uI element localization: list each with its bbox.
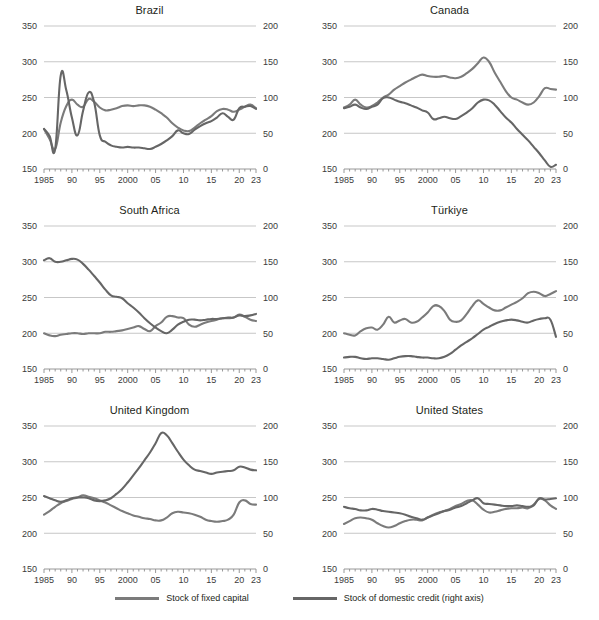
svg-text:2000: 2000 bbox=[118, 175, 138, 185]
svg-text:10: 10 bbox=[178, 575, 188, 585]
svg-text:200: 200 bbox=[563, 221, 578, 231]
svg-text:100: 100 bbox=[263, 93, 278, 103]
svg-text:150: 150 bbox=[322, 164, 337, 174]
panel-plot: 1502002503003500501001502001985909520000… bbox=[0, 0, 299, 196]
svg-text:50: 50 bbox=[263, 529, 273, 539]
panel-brazil: Brazil1502002503003500501001502001985909… bbox=[0, 0, 299, 196]
svg-text:95: 95 bbox=[95, 175, 105, 185]
svg-text:05: 05 bbox=[451, 375, 461, 385]
svg-text:20: 20 bbox=[234, 375, 244, 385]
svg-text:350: 350 bbox=[322, 21, 337, 31]
x-axis-labels: 1985909520000510152023 bbox=[334, 375, 561, 385]
gridlines bbox=[44, 26, 256, 169]
svg-text:1985: 1985 bbox=[334, 175, 354, 185]
panel-plot: 1502002503003500501001502001985909520000… bbox=[300, 400, 599, 596]
series-line-domestic-credit bbox=[44, 71, 256, 153]
gridlines bbox=[44, 226, 256, 369]
panel-plot: 1502002503003500501001502001985909520000… bbox=[0, 200, 299, 396]
svg-text:100: 100 bbox=[563, 493, 578, 503]
legend-fixed-capital: Stock of fixed capital bbox=[115, 593, 249, 603]
svg-text:200: 200 bbox=[22, 129, 37, 139]
svg-text:150: 150 bbox=[263, 57, 278, 67]
series-line-domestic-credit bbox=[344, 317, 556, 359]
series-line-domestic-credit bbox=[344, 97, 556, 167]
svg-text:15: 15 bbox=[206, 175, 216, 185]
svg-text:250: 250 bbox=[22, 493, 37, 503]
x-axis-labels: 1985909520000510152023 bbox=[34, 375, 261, 385]
svg-text:150: 150 bbox=[22, 364, 37, 374]
x-axis-labels: 1985909520000510152023 bbox=[334, 575, 561, 585]
svg-text:10: 10 bbox=[478, 575, 488, 585]
svg-text:200: 200 bbox=[563, 21, 578, 31]
svg-text:05: 05 bbox=[451, 175, 461, 185]
svg-text:20: 20 bbox=[534, 575, 544, 585]
svg-text:250: 250 bbox=[322, 493, 337, 503]
left-axis-labels: 150200250300350 bbox=[322, 421, 337, 574]
svg-text:20: 20 bbox=[534, 175, 544, 185]
svg-text:0: 0 bbox=[563, 364, 568, 374]
svg-text:150: 150 bbox=[563, 457, 578, 467]
series-line-domestic-credit bbox=[44, 432, 256, 501]
svg-text:90: 90 bbox=[367, 375, 377, 385]
svg-text:150: 150 bbox=[263, 257, 278, 267]
svg-text:300: 300 bbox=[322, 257, 337, 267]
svg-text:300: 300 bbox=[22, 57, 37, 67]
gridlines bbox=[344, 426, 556, 569]
svg-text:10: 10 bbox=[478, 175, 488, 185]
svg-text:300: 300 bbox=[22, 257, 37, 267]
svg-text:50: 50 bbox=[563, 129, 573, 139]
panel-plot: 1502002503003500501001502001985909520000… bbox=[0, 400, 299, 596]
svg-text:200: 200 bbox=[322, 329, 337, 339]
svg-text:0: 0 bbox=[563, 564, 568, 574]
panel-south-africa: South Africa1502002503003500501001502001… bbox=[0, 200, 299, 396]
panel-plot: 1502002503003500501001502001985909520000… bbox=[300, 0, 599, 196]
right-axis-labels: 050100150200 bbox=[263, 221, 278, 374]
left-axis-labels: 150200250300350 bbox=[22, 21, 37, 174]
svg-text:50: 50 bbox=[563, 529, 573, 539]
svg-text:95: 95 bbox=[395, 575, 405, 585]
svg-text:1985: 1985 bbox=[34, 575, 54, 585]
panel-canada: Canada1502002503003500501001502001985909… bbox=[300, 0, 599, 196]
x-axis-ticks bbox=[44, 369, 256, 373]
svg-text:50: 50 bbox=[563, 329, 573, 339]
x-axis-ticks bbox=[44, 569, 256, 573]
x-axis-labels: 1985909520000510152023 bbox=[34, 175, 261, 185]
svg-text:0: 0 bbox=[263, 164, 268, 174]
svg-text:15: 15 bbox=[506, 375, 516, 385]
svg-text:200: 200 bbox=[322, 529, 337, 539]
svg-text:90: 90 bbox=[367, 175, 377, 185]
x-axis-ticks bbox=[344, 369, 556, 373]
svg-text:100: 100 bbox=[263, 493, 278, 503]
gridlines bbox=[344, 26, 556, 169]
x-axis-ticks bbox=[44, 169, 256, 173]
svg-text:250: 250 bbox=[322, 93, 337, 103]
svg-text:150: 150 bbox=[322, 564, 337, 574]
svg-text:1985: 1985 bbox=[34, 375, 54, 385]
svg-text:23: 23 bbox=[551, 175, 561, 185]
svg-text:150: 150 bbox=[322, 364, 337, 374]
legend-label: Stock of domestic credit (right axis) bbox=[344, 593, 484, 603]
svg-text:20: 20 bbox=[534, 375, 544, 385]
right-axis-labels: 050100150200 bbox=[563, 221, 578, 374]
x-axis-ticks bbox=[344, 569, 556, 573]
svg-text:23: 23 bbox=[551, 375, 561, 385]
svg-text:15: 15 bbox=[506, 175, 516, 185]
svg-text:95: 95 bbox=[95, 575, 105, 585]
svg-text:250: 250 bbox=[22, 293, 37, 303]
right-axis-labels: 050100150200 bbox=[263, 421, 278, 574]
svg-text:10: 10 bbox=[478, 375, 488, 385]
right-axis-labels: 050100150200 bbox=[563, 21, 578, 174]
x-axis-ticks bbox=[344, 169, 556, 173]
panel-united-states: United States150200250300350050100150200… bbox=[300, 400, 599, 596]
svg-text:150: 150 bbox=[263, 457, 278, 467]
left-axis-labels: 150200250300350 bbox=[22, 221, 37, 374]
x-axis-labels: 1985909520000510152023 bbox=[334, 175, 561, 185]
svg-text:95: 95 bbox=[395, 375, 405, 385]
svg-text:05: 05 bbox=[151, 375, 161, 385]
svg-text:15: 15 bbox=[506, 575, 516, 585]
svg-text:300: 300 bbox=[322, 57, 337, 67]
panel-plot: 1502002503003500501001502001985909520000… bbox=[300, 200, 599, 396]
svg-text:15: 15 bbox=[206, 375, 216, 385]
svg-text:150: 150 bbox=[22, 564, 37, 574]
svg-text:300: 300 bbox=[22, 457, 37, 467]
